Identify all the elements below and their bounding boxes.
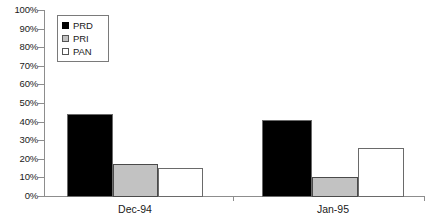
y-label-90-wrap: 90% [0,24,38,34]
y-label-20-wrap: 20% [0,154,38,164]
y-tick-30 [38,140,44,141]
y-tick-label-80: 80% [2,42,38,52]
y-tick-label-30: 30% [2,135,38,145]
bar-jan95-prd [262,120,312,197]
bar-jan95-pan [358,148,404,197]
y-label-40-wrap: 40% [0,117,38,127]
y-tick-label-70: 70% [2,61,38,71]
y-tick-label-20: 20% [2,154,38,164]
y-tick-10 [38,177,44,178]
y-tick-40 [38,122,44,123]
bar-dec94-pri [113,164,158,197]
y-label-0-wrap: 0% [0,191,38,201]
y-label-70-wrap: 70% [0,61,38,71]
y-label-50-wrap: 50% [0,98,38,108]
category-tick-0 [233,196,234,201]
y-tick-label-60: 60% [2,79,38,89]
y-tick-label-40: 40% [2,117,38,127]
y-tick-60 [38,84,44,85]
legend-swatch-pri-icon [62,35,69,42]
category-tick-1 [424,196,425,201]
y-tick-label-50: 50% [2,98,38,108]
legend-label-prd: PRD [73,21,93,31]
y-tick-0 [38,196,44,197]
y-tick-label-100: 100% [2,5,38,15]
y-tick-label-90: 90% [2,24,38,34]
category-label-dec94: Dec-94 [90,203,180,215]
legend-swatch-prd-icon [62,22,69,29]
y-label-30-wrap: 30% [0,135,38,145]
legend: PRD PRI PAN [57,15,109,62]
y-label-100-wrap: 100% [0,5,38,15]
y-axis-line [44,10,45,197]
legend-label-pan: PAN [73,47,92,57]
bar-dec94-prd [67,114,113,197]
bar-chart: 100% 90% 80% 70% 60% 50% 40% 30% 20% 10%… [0,0,439,224]
bar-dec94-pan [158,168,203,197]
legend-swatch-pan-icon [62,48,69,55]
y-tick-70 [38,66,44,67]
y-tick-label-10: 10% [2,172,38,182]
legend-item-pri: PRI [62,32,104,45]
y-tick-90 [38,29,44,30]
y-tick-80 [38,47,44,48]
legend-label-pri: PRI [73,34,89,44]
y-tick-100 [38,10,44,11]
y-tick-50 [38,103,44,104]
y-label-80-wrap: 80% [0,42,38,52]
bar-jan95-pri [312,177,358,197]
y-tick-label-0: 0% [2,191,38,201]
legend-item-pan: PAN [62,45,104,58]
category-label-jan95: Jan-95 [288,203,378,215]
y-tick-20 [38,159,44,160]
y-label-60-wrap: 60% [0,79,38,89]
legend-item-prd: PRD [62,19,104,32]
y-label-10-wrap: 10% [0,172,38,182]
